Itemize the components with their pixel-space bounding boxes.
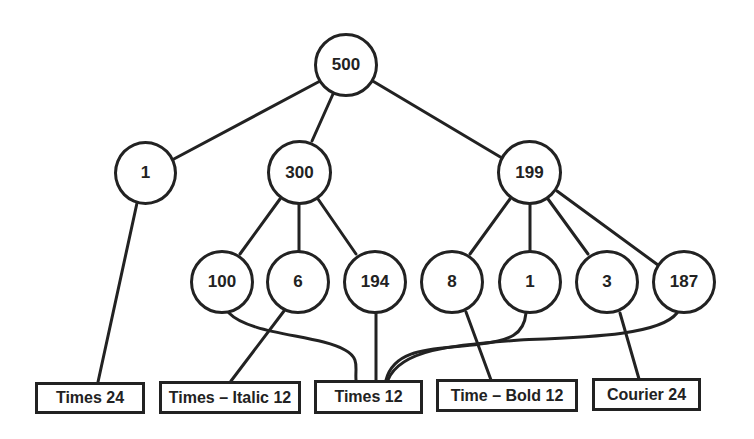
- node-1-right: 1: [498, 250, 562, 314]
- node-1-left: 1: [114, 141, 177, 205]
- edge-199-8: [470, 199, 510, 254]
- edge-187-times12: [388, 313, 677, 380]
- box-times-italic-12: Times – Italic 12: [159, 381, 301, 414]
- node-8: 8: [420, 250, 484, 314]
- edge-100-times12: [229, 313, 356, 380]
- edge-500-300: [312, 94, 333, 141]
- box-times-24: Times 24: [35, 382, 145, 414]
- node-3: 3: [575, 250, 639, 314]
- box-times-12: Times 12: [314, 380, 423, 414]
- edge-199-3: [548, 199, 588, 254]
- node-187: 187: [652, 250, 716, 314]
- box-time-bold-12: Time – Bold 12: [436, 379, 578, 412]
- node-194: 194: [343, 250, 407, 314]
- node-100: 100: [190, 250, 254, 314]
- node-199: 199: [497, 140, 562, 205]
- edge-300-194: [318, 199, 356, 254]
- box-courier-24: Courier 24: [592, 378, 701, 411]
- edge-300-100: [240, 199, 280, 254]
- edge-3-courier24: [620, 313, 639, 379]
- edge-1-times24: [98, 203, 137, 382]
- node-500: 500: [314, 33, 378, 97]
- edge-500-199: [371, 80, 502, 158]
- node-300: 300: [267, 140, 332, 205]
- node-6: 6: [266, 250, 330, 314]
